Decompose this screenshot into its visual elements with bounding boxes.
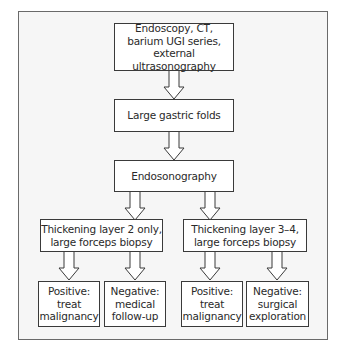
node-right-negative: Negative: surgical exploration xyxy=(246,281,309,327)
node-thickening-layer-2: Thickening layer 2 only, large forceps b… xyxy=(40,219,163,252)
node-thickening-layer-3-4: Thickening layer 3–4, large forceps biop… xyxy=(183,219,307,252)
node-large-gastric-folds: Large gastric folds xyxy=(114,99,234,132)
node-left-negative: Negative: medical follow-up xyxy=(104,281,166,327)
node-right-branch-label: Thickening layer 3–4, large forceps biop… xyxy=(191,223,299,248)
node-start-label: Endoscopy, CT, barium UGI series, extern… xyxy=(115,22,233,72)
arrow-down-icon xyxy=(125,252,145,280)
arrow-down-icon xyxy=(200,192,220,220)
node-left-neg-label: Negative: medical follow-up xyxy=(111,285,160,323)
node-endosonography: Endosonography xyxy=(114,160,234,192)
arrow-down-icon xyxy=(59,252,79,280)
node-folds-label: Large gastric folds xyxy=(127,109,220,122)
node-start: Endoscopy, CT, barium UGI series, extern… xyxy=(114,23,234,71)
arrow-down-icon xyxy=(267,252,287,280)
arrow-down-icon xyxy=(164,71,184,99)
arrow-down-icon xyxy=(125,192,145,220)
node-left-pos-label: Positive: treat malignancy xyxy=(40,285,99,323)
node-right-pos-label: Positive: treat malignancy xyxy=(183,285,242,323)
arrow-down-icon xyxy=(200,252,220,280)
node-left-branch-label: Thickening layer 2 only, large forceps b… xyxy=(41,223,162,248)
node-right-positive: Positive: treat malignancy xyxy=(181,281,243,327)
node-right-neg-label: Negative: surgical exploration xyxy=(249,285,306,323)
node-left-positive: Positive: treat malignancy xyxy=(38,281,100,327)
arrow-down-icon xyxy=(164,132,184,160)
node-eus-label: Endosonography xyxy=(131,170,217,183)
